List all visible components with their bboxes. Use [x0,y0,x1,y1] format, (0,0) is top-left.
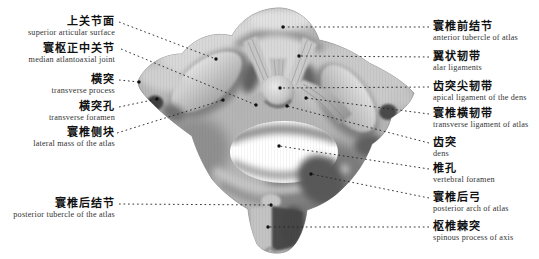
leader-dot-right-6 [309,172,312,175]
label-chinese-text: 椎孔 [433,162,495,175]
leader-line-right-3 [306,98,429,114]
anatomy-label-right-3: 寰椎横韧带transverse ligament of atlas [433,107,528,130]
label-english-text: lateral mass of the atlas [33,139,115,149]
leader-dot-right-3 [304,96,307,99]
label-chinese-text: 寰椎横韧带 [433,107,528,120]
leader-line-left-4 [117,100,223,133]
label-chinese-text: 寰椎侧块 [33,126,115,139]
label-english-text: vertebral foramen [433,175,495,185]
anatomy-label-right-7: 枢椎棘突spinous process of axis [433,220,513,243]
leader-dot-right-5 [277,144,280,147]
leader-line-right-1 [299,56,429,57]
leader-line-left-5 [119,204,271,205]
leader-line-right-5 [279,146,429,169]
leader-line-left-0 [119,22,216,59]
leader-line-right-2 [280,87,429,88]
leader-dot-left-4 [221,98,224,101]
label-english-text: dens [433,149,457,159]
leader-line-left-1 [121,49,256,105]
anatomy-label-right-0: 寰椎前结节anterior tubercle of atlas [433,20,518,43]
leader-line-left-2 [119,80,139,82]
label-english-text: spinous process of axis [433,233,513,243]
anatomy-label-right-6: 寰椎后弓posterior arch of atlas [433,191,509,214]
leader-dot-left-5 [269,203,272,206]
label-chinese-text: 枢椎棘突 [433,220,513,233]
anatomy-label-left-1: 寰枢正中关节median atlantoaxial joint [29,42,115,65]
anatomy-label-right-5: 椎孔vertebral foramen [433,162,495,185]
leader-dot-right-0 [281,25,284,28]
label-english-text: transverse foramen [49,113,115,123]
label-english-text: apical ligament of the dens [433,93,527,103]
anatomy-label-left-2: 横突transverse process [52,73,115,96]
label-chinese-text: 翼状韧带 [433,50,482,63]
label-english-text: posterior arch of atlas [433,204,509,214]
anatomy-label-left-0: 上关节面superior articular surface [28,15,115,38]
label-english-text: superior articular surface [28,28,115,38]
leader-dot-left-2 [137,80,140,83]
label-english-text: posterior tubercle of the atlas [13,210,115,220]
leader-dot-right-2 [278,86,281,89]
label-english-text: anterior tubercle of atlas [433,33,518,43]
leader-dot-right-1 [297,54,300,57]
leader-dot-left-3 [155,97,158,100]
anatomy-label-right-4: 齿突dens [433,136,457,159]
label-chinese-text: 寰椎后结节 [13,197,115,210]
label-chinese-text: 寰枢正中关节 [29,42,115,55]
label-chinese-text: 齿突 [433,136,457,149]
anatomy-label-right-1: 翼状韧带alar ligaments [433,50,482,73]
label-chinese-text: 寰椎后弓 [433,191,509,204]
label-chinese-text: 横突孔 [49,100,115,113]
label-english-text: median atlantoaxial joint [29,55,115,65]
label-chinese-text: 上关节面 [28,15,115,28]
label-english-text: transverse process [52,86,115,96]
leader-dot-left-0 [214,57,217,60]
leader-line-right-6 [311,174,429,198]
leader-line-left-3 [119,99,157,107]
label-chinese-text: 齿突尖韧带 [433,80,527,93]
leader-dot-right-7 [266,225,269,228]
leader-dot-right-4 [285,104,288,107]
anatomy-diagram: 上关节面superior articular surface寰枢正中关节medi… [0,0,539,259]
leader-dot-left-1 [254,103,257,106]
leader-line-right-4 [287,106,429,143]
anatomy-label-left-3: 横突孔transverse foramen [49,100,115,123]
label-chinese-text: 横突 [52,73,115,86]
label-english-text: transverse ligament of atlas [433,120,528,130]
anatomy-label-right-2: 齿突尖韧带apical ligament of the dens [433,80,527,103]
label-chinese-text: 寰椎前结节 [433,20,518,33]
anatomy-label-left-4: 寰椎侧块lateral mass of the atlas [33,126,115,149]
label-english-text: alar ligaments [433,63,482,73]
anatomy-label-left-5: 寰椎后结节posterior tubercle of the atlas [13,197,115,220]
